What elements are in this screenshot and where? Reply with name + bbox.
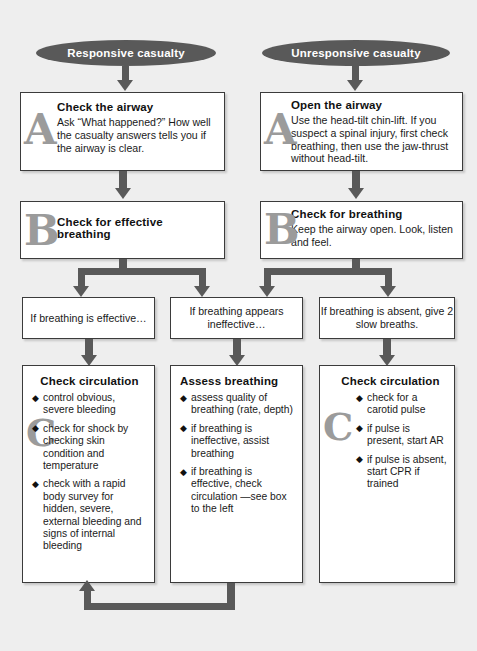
letter-a-right: A <box>264 109 297 151</box>
connector-left-b-bus <box>78 268 206 275</box>
title-check-circulation-right: Check circulation <box>334 375 447 387</box>
list-item: ◆assess quality of breathing (rate, dept… <box>180 392 295 417</box>
title-open-the-airway: Open the airway <box>291 99 456 111</box>
diamond-bullet-icon: ◆ <box>180 466 187 478</box>
diamond-bullet-icon: ◆ <box>356 392 363 404</box>
list-item-text: if breathing is effective, check circula… <box>191 466 287 514</box>
box-check-the-airway: A Check the airway Ask “What happened?” … <box>20 92 225 171</box>
list-check-circulation-right: ◆check for a carotid pulse ◆if pulse is … <box>334 392 447 491</box>
body-check-for-breathing: Keep the airway open. Look, listen and f… <box>291 223 456 249</box>
box-check-for-effective-breathing: B Check for effective breathing <box>20 201 225 259</box>
box-check-for-breathing: B Check for breathing Keep the airway op… <box>260 201 463 259</box>
list-item: ◆if pulse is absent, start CPR if traine… <box>356 454 447 491</box>
list-item-text: check for shock by checking skin conditi… <box>43 423 128 471</box>
title-assess-breathing: Assess breathing <box>180 375 295 387</box>
diamond-bullet-icon: ◆ <box>180 392 187 404</box>
list-item-text: if pulse is absent, start CPR if trained <box>367 454 447 490</box>
arrowhead-condition-ineffective-left <box>194 286 210 297</box>
list-item: ◆check with a rapid body survey for hidd… <box>32 478 147 552</box>
node-unresponsive-casualty: Unresponsive casualty <box>262 40 450 66</box>
connector-feedback-up <box>84 589 91 610</box>
box-condition-absent: If breathing is absent, give 2 slow brea… <box>319 297 455 339</box>
list-check-circulation-left: ◆control obvious, severe bleeding ◆check… <box>32 392 147 553</box>
arrowhead-left-oval-to-a <box>117 80 133 91</box>
list-item: ◆control obvious, severe bleeding <box>32 392 147 417</box>
box-assess-breathing: Assess breathing ◆assess quality of brea… <box>170 365 303 583</box>
diamond-bullet-icon: ◆ <box>180 422 187 434</box>
letter-b-left: B <box>24 210 60 252</box>
flowchart-page: Responsive casualty Unresponsive casualt… <box>0 0 477 651</box>
arrowhead-condition-absent <box>380 286 396 297</box>
body-open-the-airway: Use the head-tilt chin-lift. If you susp… <box>291 114 456 165</box>
list-item-text: control obvious, severe bleeding <box>43 392 116 415</box>
diamond-bullet-icon: ◆ <box>356 422 363 434</box>
arrowhead-condition-ineffective-right <box>259 286 275 297</box>
condition-ineffective-text: If breathing appears ineffective… <box>171 305 302 331</box>
list-item: ◆check for shock by checking skin condit… <box>32 423 147 473</box>
list-item-text: assess quality of breathing (rate, depth… <box>191 392 293 415</box>
list-assess-breathing: ◆assess quality of breathing (rate, dept… <box>180 392 295 516</box>
title-check-the-airway: Check the airway <box>57 101 216 113</box>
body-check-the-airway: Ask “What happened?” How well the casual… <box>57 116 216 154</box>
connector-right-b-bus <box>264 268 392 275</box>
title-check-for-breathing: Check for breathing <box>291 208 456 220</box>
arrowhead-condition-effective <box>73 286 89 297</box>
arrowhead-left-a-to-b <box>115 188 131 199</box>
connector-feedback-left <box>84 603 235 610</box>
letter-b-right: B <box>264 209 300 251</box>
list-item: ◆check for a carotid pulse <box>356 392 447 417</box>
diamond-bullet-icon: ◆ <box>32 478 39 490</box>
oval-label-left: Responsive casualty <box>67 47 185 59</box>
arrowhead-right-a-to-b <box>348 188 364 199</box>
letter-a-left: A <box>24 109 57 151</box>
list-item: ◆if breathing is effective, check circul… <box>180 466 295 516</box>
condition-absent-text: If breathing is absent, give 2 slow brea… <box>320 305 454 331</box>
list-item-text: check for a carotid pulse <box>367 392 425 415</box>
list-item-text: check with a rapid body survey for hidde… <box>43 478 141 551</box>
box-check-circulation-left: C Check circulation ◆control obvious, se… <box>22 365 155 583</box>
box-condition-ineffective: If breathing appears ineffective… <box>170 297 303 339</box>
arrowhead-right-oval-to-a <box>347 80 363 91</box>
diamond-bullet-icon: ◆ <box>32 422 39 434</box>
box-condition-effective: If breathing is effective… <box>22 297 155 339</box>
diamond-bullet-icon: ◆ <box>356 453 363 465</box>
diamond-bullet-icon: ◆ <box>32 392 39 404</box>
condition-effective-text: If breathing is effective… <box>30 312 146 325</box>
box-open-the-airway: A Open the airway Use the head-tilt chin… <box>260 92 463 171</box>
oval-label-right: Unresponsive casualty <box>291 47 420 59</box>
title-check-for-effective-breathing: Check for effective breathing <box>57 216 216 240</box>
list-item-text: if pulse is present, start AR <box>367 423 444 446</box>
node-responsive-casualty: Responsive casualty <box>36 40 216 66</box>
list-item: ◆if breathing is ineffective, assist bre… <box>180 423 295 460</box>
list-item: ◆if pulse is present, start AR <box>356 423 447 448</box>
list-item-text: if breathing is ineffective, assist brea… <box>191 423 269 459</box>
title-check-circulation-left: Check circulation <box>32 375 147 387</box>
box-check-circulation-right: C Check circulation ◆check for a carotid… <box>319 365 455 583</box>
arrowhead-feedback-to-check-circulation <box>79 580 95 591</box>
